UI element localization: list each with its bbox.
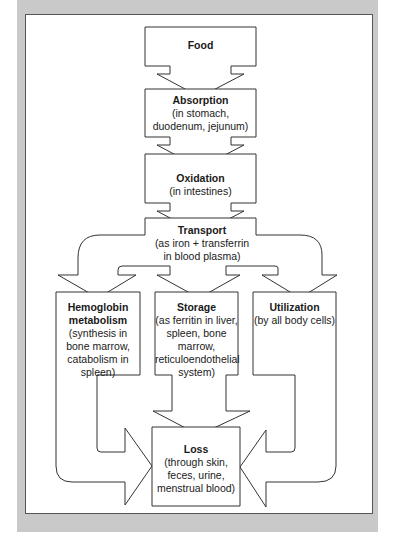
node-utilization: Utilization (by all body cells) bbox=[253, 301, 336, 327]
node-detail: (as iron + transferrin in blood plasma) bbox=[150, 237, 254, 263]
node-absorption: Absorption (in stomach, duodenum, jejunu… bbox=[145, 94, 256, 133]
node-title: Utilization bbox=[253, 301, 336, 314]
node-title: Food bbox=[145, 39, 256, 52]
node-oxidation: Oxidation (in intestines) bbox=[145, 172, 256, 198]
food-arrow-shape bbox=[145, 27, 256, 97]
node-detail: (by all body cells) bbox=[253, 314, 336, 327]
node-hemoglobin: Hemoglobin metabolism (synthesis in bone… bbox=[56, 301, 140, 379]
node-detail: (in stomach, duodenum, jejunum) bbox=[145, 107, 256, 133]
node-detail: (through skin, feces, urine, menstrual b… bbox=[156, 456, 236, 495]
node-storage: Storage (as ferritin in liver, spleen, b… bbox=[155, 301, 238, 379]
node-title: Transport bbox=[150, 224, 254, 237]
node-food: Food bbox=[145, 39, 256, 52]
node-title: Hemoglobin metabolism bbox=[56, 301, 140, 327]
node-title: Oxidation bbox=[145, 172, 256, 185]
node-title: Loss bbox=[156, 443, 236, 456]
node-loss: Loss (through skin, feces, urine, menstr… bbox=[156, 443, 236, 495]
node-title: Absorption bbox=[145, 94, 256, 107]
node-title: Storage bbox=[155, 301, 238, 314]
node-detail: (synthesis in bone marrow, catabolism in… bbox=[56, 327, 140, 379]
node-detail: (as ferritin in liver, spleen, bone marr… bbox=[155, 314, 238, 379]
node-transport: Transport (as iron + transferrin in bloo… bbox=[150, 224, 254, 263]
node-detail: (in intestines) bbox=[145, 185, 256, 198]
